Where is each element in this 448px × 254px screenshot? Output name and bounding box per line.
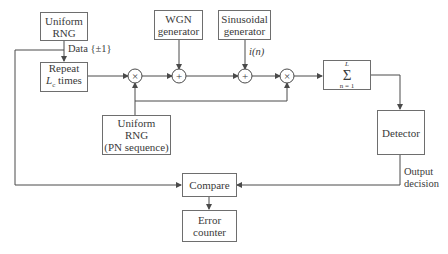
summation-block: L Σ n = 1 [323, 60, 371, 90]
block-label: generator [158, 25, 200, 37]
data-label: Data {±1} [68, 43, 112, 55]
block-label: Lc times [46, 74, 82, 91]
summation-icon: L Σ n = 1 [340, 60, 354, 90]
repeat-block: Repeat Lc times [40, 62, 88, 92]
block-label: generator [224, 25, 266, 37]
block-label: Error [198, 214, 221, 226]
block-label: Compare [189, 179, 229, 191]
detector-block: Detector [377, 110, 425, 155]
multiply-icon: × [284, 70, 290, 82]
block-label: Uniform [118, 117, 156, 129]
block-label: RNG [52, 27, 75, 39]
arrow-detector-to-compare [237, 155, 400, 185]
error-counter-block: Error counter [182, 210, 237, 242]
block-label: Sinusoidal [221, 13, 267, 25]
arrow-pn-to-mult2 [135, 83, 287, 101]
plus-icon: + [176, 70, 182, 82]
wgn-generator-block: WGN generator [154, 10, 203, 40]
sinusoidal-generator-block: Sinusoidal generator [218, 10, 271, 40]
pn-sequence-rng-block: Uniform RNG (PN sequence) [102, 115, 171, 155]
compare-block: Compare [182, 173, 237, 197]
block-label: Uniform [45, 15, 83, 27]
output-decision-label: Output decision [404, 166, 439, 190]
block-label: Repeat [49, 62, 80, 74]
multiply-icon: × [132, 70, 138, 82]
block-label: (PN sequence) [104, 141, 168, 153]
interference-label: i(n) [249, 46, 264, 58]
plus-icon: + [242, 70, 248, 82]
block-label: counter [193, 226, 226, 238]
uniform-rng-block: Uniform RNG [40, 12, 88, 41]
diagram-canvas: × + + × Uniform RNG Repeat Lc times WGN … [0, 0, 448, 254]
block-label: WGN [165, 13, 191, 25]
block-label: Detector [382, 127, 420, 139]
block-label: RNG [125, 129, 148, 141]
arrow-sum-to-detector [371, 75, 400, 109]
